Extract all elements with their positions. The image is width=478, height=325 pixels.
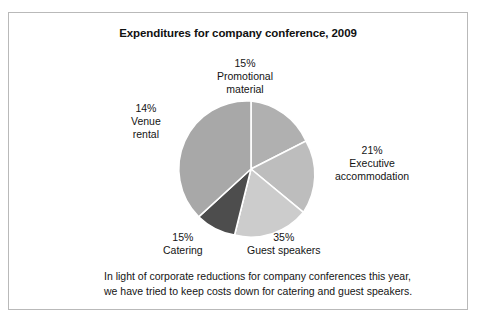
pie-label-promotional: 15% Promotional material	[217, 57, 273, 96]
pie-label-catering: 15% Catering	[163, 231, 203, 257]
pie-label-catering-pct: 15%	[163, 231, 203, 244]
pie-label-executive-pct: 21%	[335, 144, 409, 157]
pie-label-guest-speakers-name: Guest speakers	[247, 244, 321, 257]
pie-label-venue-rental: 14% Venue rental	[131, 102, 161, 141]
pie-label-promotional-name-1: Promotional	[217, 70, 273, 83]
pie-label-promotional-name-2: material	[217, 83, 273, 96]
pie-label-venue-rental-name-1: Venue	[131, 115, 161, 128]
pie-label-executive-name-1: Executive	[335, 157, 409, 170]
pie-chart: 15% Promotional material 21% Executive a…	[9, 13, 467, 309]
slide-frame: Expenditures for company conference, 200…	[8, 12, 468, 310]
pie-label-executive: 21% Executive accommodation	[335, 144, 409, 183]
pie-label-guest-speakers: 35% Guest speakers	[247, 231, 321, 257]
pie-label-guest-speakers-pct: 35%	[247, 231, 321, 244]
pie-label-promotional-pct: 15%	[217, 57, 273, 70]
pie-label-catering-name: Catering	[163, 244, 203, 257]
pie-label-venue-rental-pct: 14%	[131, 102, 161, 115]
slide-caption-text: In light of corporate reductions for com…	[104, 269, 414, 298]
pie-label-venue-rental-name-2: rental	[131, 128, 161, 141]
slide-caption: In light of corporate reductions for com…	[104, 269, 414, 298]
pie-label-executive-name-2: accommodation	[335, 170, 409, 183]
